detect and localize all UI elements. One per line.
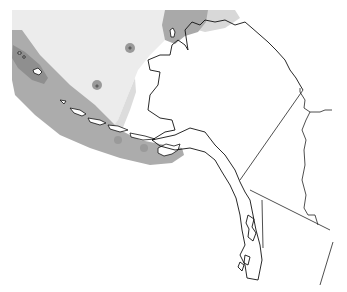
panhandle-diagonal-border xyxy=(240,90,303,180)
alaska-canada-border xyxy=(300,88,332,112)
se-line xyxy=(320,242,333,285)
island-dot xyxy=(129,47,131,49)
small-island-zone-3 xyxy=(114,136,122,144)
island-dot xyxy=(96,85,98,87)
map-canvas xyxy=(0,0,347,292)
small-island-zone-4 xyxy=(140,144,148,152)
panhandle-inner-line xyxy=(262,200,263,248)
yukon-east-border xyxy=(302,112,318,225)
north-dark-zone xyxy=(162,10,208,44)
